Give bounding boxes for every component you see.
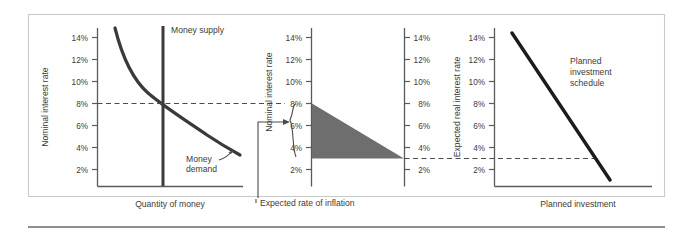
panel-inflation-wedge: 14% 12% 10% 8% 6% 4% 2% 14% 12% 10% 8% 6… — [256, 28, 600, 208]
panel3-ticklabel-14: 14% — [469, 34, 485, 43]
expected-inflation-label: Expected rate of inflation — [260, 198, 355, 208]
panel2-right-ticklabel-2: 2% — [418, 166, 430, 175]
inflation-leader-line — [258, 122, 284, 198]
panel2-left-axis-title-line1: Nominal interest rate — [264, 52, 274, 132]
panel2-left-ticklabel-14: 14% — [286, 34, 302, 43]
panel3-x-axis-title: Planned investment — [540, 199, 616, 209]
panel2-right-ticklabel-6: 6% — [418, 122, 430, 131]
panel1-ticklabel-4: 4% — [76, 144, 88, 153]
panel2-left-ticklabel-10: 10% — [286, 78, 302, 87]
panel2-right-ticklabel-8: 8% — [418, 100, 430, 109]
planned-investment-label-line1: Planned — [570, 56, 602, 66]
panel3-ticklabel-2: 2% — [473, 166, 485, 175]
panel1-y-axis-title: Nominal interest rate — [40, 67, 50, 147]
panel3-ticklabel-8: 8% — [473, 100, 485, 109]
money-demand-label-line1: Money — [186, 154, 212, 164]
panel1-ticklabel-10: 10% — [72, 78, 88, 87]
money-demand-label-line2: demand — [186, 164, 217, 174]
panel2-right-ticklabel-10: 10% — [414, 78, 430, 87]
panel2-left-ticklabel-8: 8% — [290, 100, 302, 109]
panel2-left-ticklabel-2: 2% — [290, 166, 302, 175]
panel-money-market: 14% 12% 10% 8% 6% 4% 2% Nominal interest… — [40, 25, 285, 209]
inflation-leader-arrowhead — [283, 119, 290, 125]
panel1-ticklabel-2: 2% — [76, 166, 88, 175]
panel-planned-investment: 14% 12% 10% 8% 6% 4% 2% Expected real in… — [452, 28, 652, 209]
figure-frame — [29, 15, 665, 197]
panel2-left-ticklabel-12: 12% — [286, 56, 302, 65]
economics-figure: 14% 12% 10% 8% 6% 4% 2% Nominal interest… — [0, 0, 693, 247]
panel3-ticklabel-10: 10% — [469, 78, 485, 87]
figure-canvas: 14% 12% 10% 8% 6% 4% 2% Nominal interest… — [0, 0, 693, 247]
panel3-ticklabel-6: 6% — [473, 122, 485, 131]
panel2-right-ticklabel-12: 12% — [414, 56, 430, 65]
planned-investment-label-line2: investment — [570, 67, 612, 77]
panel3-y-axis-title: Expected real interest rate — [452, 57, 462, 158]
money-supply-label: Money supply — [171, 25, 225, 35]
panel1-ticklabel-14: 14% — [72, 34, 88, 43]
panel2-right-ticklabel-4: 4% — [418, 144, 430, 153]
panel3-ticklabel-4: 4% — [473, 144, 485, 153]
planned-investment-label-line3: schedule — [570, 78, 605, 88]
panel2-left-ticklabel-4: 4% — [290, 144, 302, 153]
panel1-ticklabel-6: 6% — [76, 122, 88, 131]
money-demand-curve — [115, 28, 240, 155]
panel2-right-ticklabel-14: 14% — [414, 34, 430, 43]
panel1-ticklabel-8: 8% — [76, 100, 88, 109]
expected-inflation-wedge — [312, 104, 404, 159]
panel1-ticklabel-12: 12% — [72, 56, 88, 65]
panel1-x-axis-title: Quantity of money — [135, 199, 205, 209]
panel3-ticklabel-12: 12% — [469, 56, 485, 65]
